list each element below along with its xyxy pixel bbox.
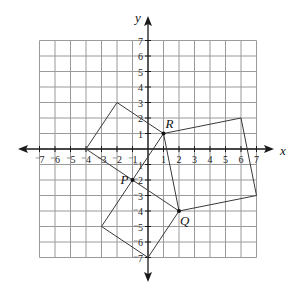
y-axis-label: y (133, 10, 141, 25)
y-tick-label: 1 (138, 129, 143, 140)
y-tick-label: 4 (138, 82, 143, 93)
x-tick-label: 3 (192, 154, 197, 165)
coordinate-diagram: x y ⁻7⁻6⁻5⁻4⁻3⁻2⁻11234567⁻7⁻6⁻5⁻4⁻3⁻2⁻11… (0, 0, 292, 293)
y-tick-label: ⁻4 (133, 206, 143, 217)
axes: x y (18, 10, 286, 282)
x-tick-label: 5 (223, 154, 228, 165)
y-tick-label: ⁻5 (133, 222, 143, 233)
x-tick-label: ⁻5 (66, 154, 76, 165)
y-tick-label: 7 (138, 36, 143, 47)
x-tick-label: 1 (161, 154, 166, 165)
y-tick-label: ⁻1 (133, 160, 143, 171)
x-tick-label: ⁻4 (81, 154, 91, 165)
point-P (131, 178, 135, 182)
x-tick-label: 4 (208, 154, 213, 165)
y-tick-label: ⁻6 (133, 237, 143, 248)
x-tick-label: ⁻2 (112, 154, 122, 165)
x-tick-label: 2 (177, 154, 182, 165)
x-tick-label: 6 (239, 154, 244, 165)
x-axis-label: x (279, 143, 286, 158)
y-tick-label: ⁻7 (133, 253, 143, 264)
y-tick-label: 3 (138, 98, 143, 109)
y-tick-label: ⁻3 (133, 191, 143, 202)
y-tick-label: 6 (138, 51, 143, 62)
x-tick-label: ⁻7 (35, 154, 45, 165)
x-tick-label: 7 (254, 154, 259, 165)
point-label-P: P (120, 172, 129, 187)
y-tick-label: 5 (138, 67, 143, 78)
square-on-PR (86, 103, 164, 181)
point-label-Q: Q (180, 213, 190, 228)
point-R (162, 132, 166, 136)
x-tick-label: ⁻6 (50, 154, 60, 165)
point-label-R: R (165, 116, 174, 131)
